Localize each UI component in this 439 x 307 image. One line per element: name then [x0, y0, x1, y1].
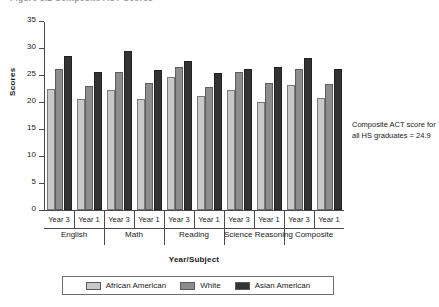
- bar: [197, 96, 205, 210]
- bar: [274, 67, 282, 210]
- bar: [167, 77, 175, 210]
- bar: [47, 89, 55, 210]
- x-axis-separator: [254, 211, 255, 229]
- bar: [257, 102, 265, 210]
- legend-label: White: [200, 281, 220, 290]
- legend-swatch-icon: [86, 282, 101, 290]
- y-axis-tick-label: 0: [32, 204, 36, 213]
- y-axis-tick: 35: [39, 21, 44, 22]
- x-axis-group-label: Composite: [284, 230, 344, 240]
- bar: [265, 83, 273, 210]
- y-axis-tick-label: 15: [27, 123, 36, 132]
- y-axis-tick: 5: [39, 183, 44, 184]
- bar: [184, 61, 192, 210]
- x-axis-sublabel: Year 3: [224, 211, 254, 229]
- legend-item[interactable]: African American: [86, 281, 166, 290]
- y-axis-tick: 30: [39, 48, 44, 49]
- bar: [304, 58, 312, 210]
- bar: [94, 72, 102, 210]
- bar: [287, 85, 295, 210]
- x-axis-sublabel: Year 1: [254, 211, 284, 229]
- bar: [115, 72, 123, 210]
- bar: [145, 83, 153, 210]
- y-axis-line: [44, 22, 45, 211]
- x-axis-group-label: Science Reasoning: [224, 230, 284, 240]
- legend-label: Asian American: [255, 281, 311, 290]
- figure-title: Figure 5.2 Composite ACT Scores: [10, 0, 153, 3]
- y-axis-tick: 25: [39, 75, 44, 76]
- x-axis-sublabel: Year 1: [194, 211, 224, 229]
- legend-item[interactable]: Asian American: [235, 281, 311, 290]
- bar: [175, 67, 183, 210]
- x-axis-sublabel: Year 3: [164, 211, 194, 229]
- bar: [205, 87, 213, 210]
- y-axis-tick-label: 30: [27, 42, 36, 51]
- y-axis-tick: 15: [39, 129, 44, 130]
- y-axis-tick-label: 25: [27, 69, 36, 78]
- bar: [55, 69, 63, 210]
- bar: [137, 99, 145, 210]
- bar: [64, 56, 72, 210]
- bar: [154, 70, 162, 210]
- bar: [107, 90, 115, 210]
- x-axis-sublabel: Year 3: [44, 211, 74, 229]
- x-axis-sublabel: Year 3: [104, 211, 134, 229]
- legend-swatch-icon: [180, 282, 195, 290]
- chart-legend: African AmericanWhiteAsian American: [62, 276, 334, 295]
- y-axis-tick-label: 20: [27, 96, 36, 105]
- bar: [214, 73, 222, 210]
- y-axis-tick-label: 10: [27, 150, 36, 159]
- legend-item[interactable]: White: [180, 281, 220, 290]
- legend-swatch-icon: [235, 282, 250, 290]
- bar: [325, 84, 333, 210]
- x-axis-group-label: English: [44, 230, 104, 240]
- x-axis-group-label: Math: [104, 230, 164, 240]
- bar: [124, 51, 132, 210]
- y-axis-tick-label: 5: [32, 177, 36, 186]
- x-axis-group-label: Reading: [164, 230, 224, 240]
- y-axis-tick-label: 35: [27, 15, 36, 24]
- x-axis-label-band: Year 3Year 1Year 3Year 1Year 3Year 1Year…: [44, 211, 344, 229]
- bar: [235, 72, 243, 210]
- x-axis-sublabel: Year 1: [134, 211, 164, 229]
- composite-score-annotation: Composite ACT score for all HS graduates…: [352, 120, 436, 141]
- x-axis-title: Year/Subject: [44, 255, 344, 264]
- bar: [85, 86, 93, 210]
- bar: [227, 90, 235, 210]
- x-axis-sublabel: Year 1: [314, 211, 344, 229]
- x-axis-separator: [314, 211, 315, 229]
- x-axis-sublabel: Year 3: [284, 211, 314, 229]
- y-axis-tick: 10: [39, 156, 44, 157]
- y-axis-title: Scores: [8, 68, 17, 96]
- bar: [317, 98, 325, 210]
- x-axis-separator: [134, 211, 135, 229]
- bar: [295, 69, 303, 210]
- x-axis-separator: [74, 211, 75, 229]
- x-axis-separator: [194, 211, 195, 229]
- bar: [334, 69, 342, 210]
- x-axis-sublabel: Year 1: [74, 211, 104, 229]
- bar: [244, 69, 252, 210]
- bar: [77, 99, 85, 210]
- plot-area: 05101520253035: [44, 22, 344, 211]
- legend-label: African American: [106, 281, 166, 290]
- y-axis-tick: 20: [39, 102, 44, 103]
